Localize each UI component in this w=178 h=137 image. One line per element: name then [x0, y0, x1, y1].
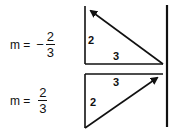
rise-label: 2 — [90, 96, 96, 108]
run-label: 3 — [113, 50, 119, 62]
triangle-positive-slope: 3 2 — [85, 74, 163, 128]
run-label: 3 — [113, 76, 119, 88]
triangle-negative-slope: 2 3 — [85, 6, 163, 64]
slope-arrow — [91, 11, 163, 64]
rise-label: 2 — [88, 34, 94, 46]
slope-diagram: 2 3 3 2 — [0, 0, 178, 137]
